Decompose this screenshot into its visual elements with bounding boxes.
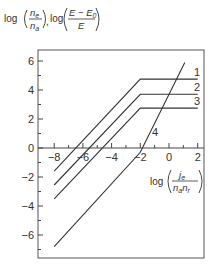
y-tick-label: −4 (21, 200, 34, 212)
y-tick-label: −6 (21, 229, 34, 241)
series-label-3: 3 (194, 95, 200, 107)
plot-frame (38, 50, 204, 258)
svg-text:na: na (30, 20, 39, 32)
x-axis-label: log je nanr (150, 169, 202, 194)
y-tick-labels: −6−4−20246 (21, 55, 34, 241)
svg-text:je: je (177, 169, 185, 181)
x-tick-label: −6 (77, 151, 90, 163)
x-tick-label: −4 (105, 151, 118, 163)
y-ticks (38, 61, 43, 250)
y-tick-label: 4 (28, 84, 34, 96)
series-label-2: 2 (194, 81, 200, 93)
svg-text:log: log (50, 13, 63, 24)
x-ticks (54, 143, 198, 148)
svg-text:,: , (46, 16, 49, 27)
y-tick-label: 6 (28, 55, 34, 67)
x-tick-label: 2 (195, 151, 201, 163)
series-label-1: 1 (194, 66, 200, 78)
x-tick-label: −8 (48, 151, 61, 163)
svg-text:log: log (4, 13, 17, 24)
y-axis-label: log ne na , log E − E0 E (4, 7, 99, 32)
x-tick-label: 0 (166, 151, 172, 163)
y-tick-label: −2 (21, 171, 34, 183)
y-tick-label: 0 (28, 142, 34, 154)
svg-text:ne: ne (30, 7, 39, 19)
svg-text:E − E0: E − E0 (69, 7, 97, 19)
svg-text:E: E (78, 20, 85, 31)
y-tick-label: 2 (28, 113, 34, 125)
series-labels: 1234 (152, 66, 200, 138)
svg-text:log: log (150, 176, 163, 187)
chart: −8−6−4−202 −6−4−20246 1234 log ne na , l… (0, 0, 213, 271)
series-label-4: 4 (152, 126, 158, 138)
svg-text:nanr: nanr (173, 182, 191, 194)
